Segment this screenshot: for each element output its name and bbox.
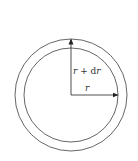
inner-radius-label: r — [85, 83, 90, 93]
outer-radius-label: r + dr — [73, 66, 101, 76]
annulus-diagram: r + dr r — [0, 0, 138, 161]
